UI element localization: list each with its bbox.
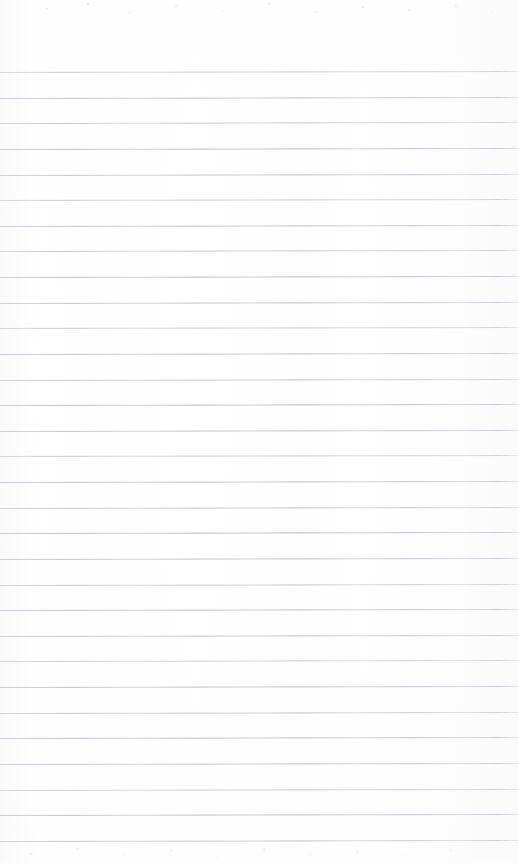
scanned-notebook-page: [0, 0, 518, 863]
paper-background: [0, 0, 518, 863]
